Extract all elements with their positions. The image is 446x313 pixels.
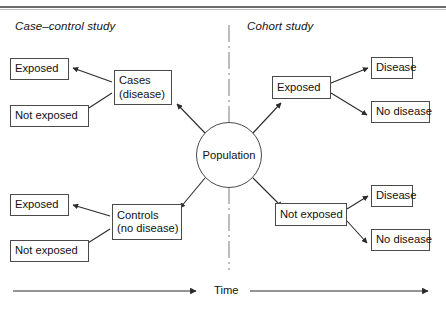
cohort-exposed-node[interactable]: Exposed	[272, 76, 331, 99]
cohort-not-exposed-outcome-no-disease[interactable]: No disease	[371, 229, 430, 251]
cohort-not-exposed-label: Not exposed	[280, 208, 343, 222]
figure-canvas: Case–control study Cohort study Populati…	[0, 0, 446, 313]
controls-label-line1: Controls	[117, 209, 159, 223]
cases-label-line2: (disease)	[119, 88, 165, 102]
controls-outcome-exposed-label: Exposed	[15, 198, 59, 212]
cohort-not-exposed-outcome-disease-label: Disease	[376, 189, 416, 203]
connector-cohort-exposed-to-disease	[331, 68, 368, 83]
cases-outcome-not-exposed[interactable]: Not exposed	[10, 105, 89, 127]
cases-outcome-exposed-label: Exposed	[15, 62, 59, 76]
controls-outcome-not-exposed-label: Not exposed	[15, 244, 78, 258]
connector-population-to-cases	[177, 104, 205, 133]
time-axis-label: Time	[214, 284, 238, 296]
cohort-not-exposed-outcome-no-disease-label: No disease	[376, 233, 432, 247]
cohort-not-exposed-node[interactable]: Not exposed	[275, 203, 347, 226]
connector-cases-to-exposed	[73, 68, 112, 82]
cohort-exposed-outcome-no-disease[interactable]: No disease	[371, 101, 430, 123]
cases-outcome-not-exposed-label: Not exposed	[15, 109, 78, 123]
controls-label-line2: (no disease)	[117, 222, 179, 236]
connector-population-to-cohort-exposed	[253, 103, 281, 133]
controls-outcome-not-exposed[interactable]: Not exposed	[10, 240, 89, 262]
cohort-exposed-outcome-disease[interactable]: Disease	[371, 57, 413, 79]
controls-outcome-exposed[interactable]: Exposed	[10, 194, 69, 216]
cases-outcome-exposed[interactable]: Exposed	[10, 58, 69, 80]
connector-controls-to-exposed	[73, 205, 110, 216]
cohort-exposed-label: Exposed	[277, 81, 321, 95]
population-label: Population	[203, 149, 256, 161]
connector-cohort-not-exposed-to-no-disease	[347, 221, 367, 243]
connector-population-to-controls	[180, 178, 205, 208]
cohort-not-exposed-outcome-disease[interactable]: Disease	[371, 185, 413, 207]
section-title-cohort: Cohort study	[247, 20, 313, 32]
cohort-exposed-outcome-no-disease-label: No disease	[376, 105, 432, 119]
cohort-exposed-outcome-disease-label: Disease	[376, 61, 416, 75]
controls-node[interactable]: Controls (no disease)	[112, 204, 182, 240]
section-title-case-control: Case–control study	[15, 20, 115, 32]
connector-cohort-not-exposed-to-disease	[347, 196, 368, 209]
population-node[interactable]: Population	[196, 122, 262, 188]
cases-label-line1: Cases	[119, 74, 151, 88]
cases-node[interactable]: Cases (disease)	[114, 70, 172, 105]
connector-cohort-exposed-to-no-disease	[331, 93, 367, 115]
